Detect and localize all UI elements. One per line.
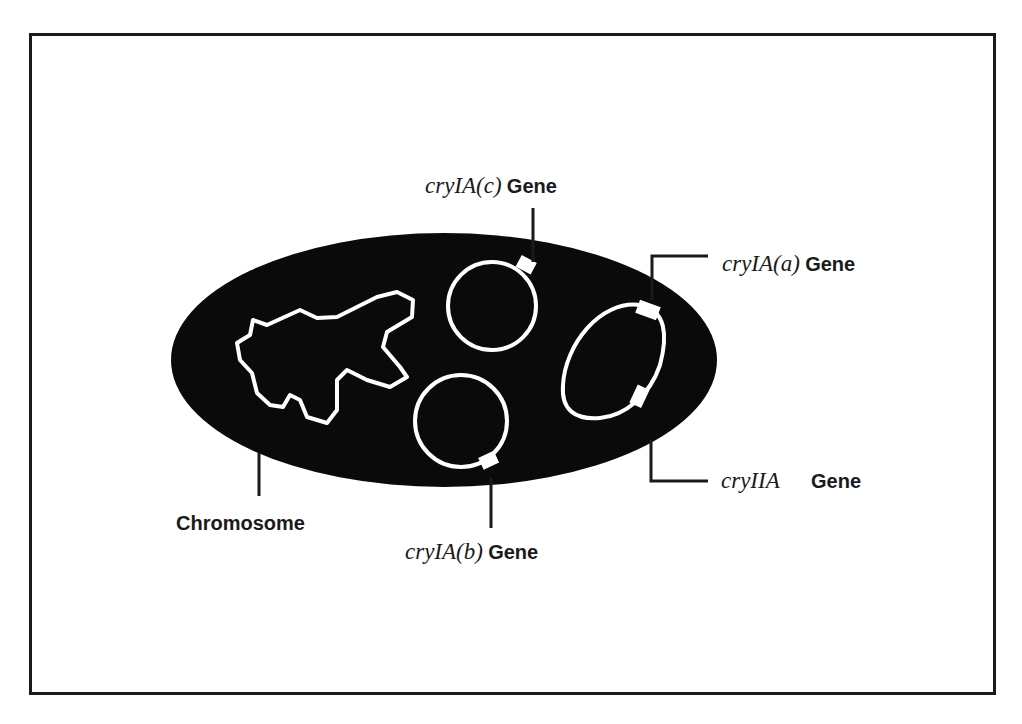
- gene-name-cry1ab: cryIA(b): [405, 539, 483, 564]
- gene-word-cry1ac: Gene: [507, 175, 557, 197]
- label-cry2a: cryIIA Gene: [721, 469, 861, 493]
- gene-name-cry1ac: cryIA(c): [425, 173, 502, 198]
- gene-word-cry2a: Gene: [811, 470, 861, 492]
- label-chromosome: Chromosome: [176, 511, 305, 535]
- gene-word-cry1ab: Gene: [488, 541, 538, 563]
- label-cry1ac: cryIA(c) Gene: [425, 174, 557, 198]
- bacterial-cell: [171, 233, 717, 487]
- gene-name-cry2a: cryIIA: [721, 468, 780, 493]
- cell-diagram: [0, 0, 1022, 724]
- label-cry1ab: cryIA(b) Gene: [405, 540, 538, 564]
- leader-line-cry2a: [651, 440, 708, 481]
- gene-name-cry1aa: cryIA(a): [722, 251, 800, 276]
- label-cry1aa: cryIA(a) Gene: [722, 252, 855, 276]
- gene-word-cry1aa: Gene: [805, 253, 855, 275]
